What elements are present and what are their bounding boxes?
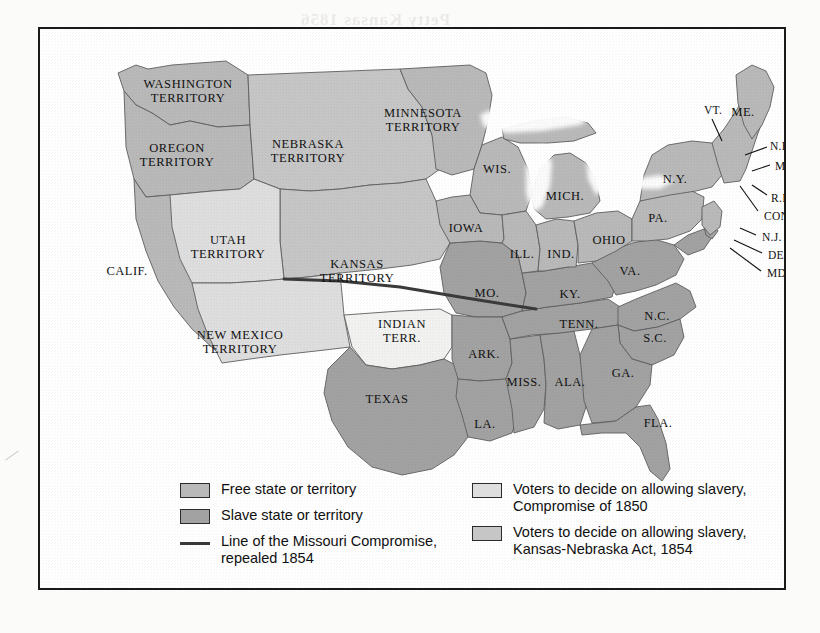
map-label-louisiana: LA.	[474, 417, 495, 431]
map-label-arkansas: ARK.	[468, 347, 500, 361]
map-label-south-carolina: S.C.	[643, 331, 667, 345]
legend-left-column: Free state or territorySlave state or te…	[180, 481, 437, 576]
legend-line-symbol	[180, 542, 210, 545]
map-label-california: CALIF.	[106, 264, 147, 278]
map-label-pennsylvania: PA.	[648, 211, 667, 225]
legend-item-free[interactable]: Free state or territory	[180, 481, 437, 498]
map-label-maine: ME.	[731, 105, 754, 119]
map-label-texas: TEXAS	[366, 392, 409, 406]
map-label-virginia: VA.	[619, 264, 640, 278]
map-label-indian-territory: INDIANTERR.	[378, 317, 426, 345]
map-label-oregon-territory: OREGONTERRITORY	[140, 141, 215, 169]
legend-label: Free state or territory	[221, 481, 356, 498]
map-label-georgia: GA.	[612, 366, 635, 380]
map-label-michigan: MICH.	[546, 189, 584, 203]
legend-item-slave[interactable]: Slave state or territory	[180, 507, 437, 524]
map-label-florida: FLA.	[644, 416, 673, 430]
map-label-nebraska-territory: NEBRASKATERRITORY	[271, 137, 346, 165]
map-label-rhode-island: R.I.	[771, 192, 784, 204]
map-label-maryland: MD.	[767, 267, 784, 279]
legend-swatch-slave	[180, 509, 210, 524]
page-corner-mark	[5, 451, 19, 461]
map-label-delaware: DEL.	[768, 249, 784, 261]
map-label-connecticut: CONN.	[764, 210, 784, 222]
map-label-missouri: MO.	[475, 286, 500, 300]
map-label-new-mexico-territory: NEW MEXICOTERRITORY	[197, 328, 284, 356]
legend-label: Line of the Missouri Compromise, repeale…	[221, 533, 437, 567]
legend-item-compromise_line[interactable]: Line of the Missouri Compromise, repeale…	[180, 533, 437, 567]
map-label-massachusetts: MASS.	[775, 160, 784, 172]
map-label-kentucky: KY.	[559, 287, 580, 301]
legend-right-column: Voters to decide on allowing slavery, Co…	[472, 481, 746, 567]
map-label-north-carolina: N.C.	[644, 309, 670, 323]
map-label-iowa: IOWA	[449, 221, 484, 235]
map-figure-frame: WASHINGTONTERRITORYOREGONTERRITORYNEBRAS…	[38, 27, 786, 590]
map-label-indiana: IND.	[547, 247, 574, 261]
legend-swatch-kansas_nebraska	[472, 526, 502, 541]
legend-swatch-compromise_1850	[472, 483, 502, 498]
map-label-new-jersey: N.J.	[762, 231, 782, 243]
map-label-vermont: VT.	[704, 104, 722, 116]
map-label-mississippi: MISS.	[507, 375, 542, 389]
map-label-minnesota-territory: MINNESOTATERRITORY	[384, 106, 462, 134]
map-label-new-hampshire: N.H.	[770, 140, 784, 152]
map-label-alabama: ALA.	[555, 375, 586, 389]
map-label-wisconsin: WIS.	[483, 162, 511, 176]
legend-label: Voters to decide on allowing slavery, Ka…	[513, 524, 746, 558]
legend-label: Slave state or territory	[221, 507, 363, 524]
legend-item-compromise_1850[interactable]: Voters to decide on allowing slavery, Co…	[472, 481, 746, 515]
map-label-tennessee: TENN.	[560, 317, 599, 331]
map-label-ohio: OHIO	[592, 233, 625, 247]
map-label-new-york: N.Y.	[663, 172, 688, 186]
map-label-kansas-territory: KANSASTERRITORY	[320, 257, 395, 285]
map-label-illinois: ILL.	[510, 247, 535, 261]
legend-swatch-free	[180, 483, 210, 498]
legend-item-kansas_nebraska[interactable]: Voters to decide on allowing slavery, Ka…	[472, 524, 746, 558]
legend-label: Voters to decide on allowing slavery, Co…	[513, 481, 746, 515]
map-label-washington-territory: WASHINGTONTERRITORY	[143, 77, 232, 105]
